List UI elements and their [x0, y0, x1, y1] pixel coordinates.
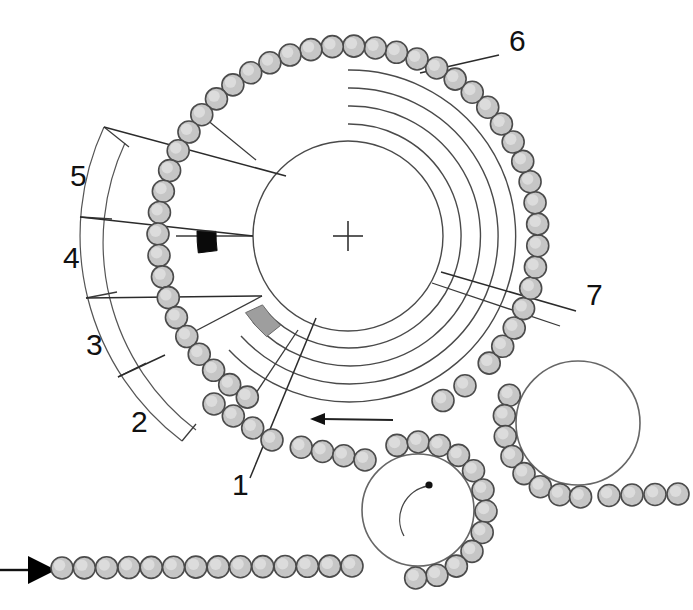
bead: [527, 235, 549, 257]
bead: [519, 171, 541, 193]
bead: [261, 429, 283, 451]
bead: [386, 434, 408, 456]
lower-left-idler-circle: [362, 454, 474, 566]
bead: [279, 44, 301, 66]
reference-label-2: 2: [131, 405, 148, 438]
gray-sector-segment: [246, 305, 281, 337]
bead: [386, 41, 408, 63]
idler-rotation-arrow-head: [425, 481, 432, 488]
bead: [454, 375, 476, 397]
bead: [405, 567, 427, 589]
bead: [494, 426, 516, 448]
dimension-arc-inner: [103, 143, 196, 430]
bead: [407, 431, 429, 453]
bead: [252, 556, 274, 578]
bead: [229, 556, 251, 578]
bead: [159, 160, 181, 182]
bead: [570, 486, 592, 508]
radial-tick-marks: [176, 110, 560, 405]
center-cross-mark: [333, 221, 363, 251]
bead: [147, 223, 169, 245]
bead: [207, 556, 229, 578]
bead: [321, 36, 343, 58]
bead: [513, 298, 535, 320]
bead: [598, 485, 620, 507]
bead: [296, 555, 318, 577]
bead: [140, 556, 162, 578]
reference-label-1: 1: [232, 468, 249, 501]
bead: [364, 37, 386, 59]
feed-direction-arrow: [0, 556, 56, 584]
reference-label-5: 5: [70, 159, 87, 192]
track-rotation-arrow: [310, 413, 393, 425]
bead: [503, 317, 525, 339]
bead: [242, 417, 264, 439]
bead: [319, 555, 341, 577]
bead: [621, 484, 643, 506]
reference-label-3: 3: [86, 328, 103, 361]
bead: [274, 555, 296, 577]
bead: [524, 256, 546, 278]
bead: [333, 445, 355, 467]
bead: [426, 564, 448, 586]
bead: [185, 556, 207, 578]
bead: [73, 557, 95, 579]
figure-root: 1234567: [0, 0, 693, 610]
bead: [148, 201, 170, 223]
bead: [203, 393, 225, 415]
bead: [498, 384, 520, 406]
bead: [222, 405, 244, 427]
bead: [527, 213, 549, 235]
bead: [475, 500, 497, 522]
bead: [341, 555, 363, 577]
reference-label-7: 7: [586, 278, 603, 311]
track-arc-5: [229, 70, 516, 402]
black-sector-segment: [197, 231, 217, 253]
bead: [157, 287, 179, 309]
track-segments: [197, 231, 281, 337]
bead: [354, 449, 376, 471]
bead: [426, 57, 448, 79]
right-idler-circle: [516, 361, 640, 485]
bead: [472, 479, 494, 501]
bead: [445, 555, 467, 577]
bead: [644, 484, 666, 506]
bead: [118, 557, 140, 579]
reference-label-6: 6: [509, 24, 526, 57]
bead: [51, 557, 73, 579]
bead: [549, 484, 571, 506]
bead: [152, 180, 174, 202]
bead: [520, 277, 542, 299]
track-arc-3: [253, 106, 480, 366]
bead: [406, 48, 428, 70]
bead: [300, 39, 322, 61]
bead: [290, 436, 312, 458]
reference-label-4: 4: [63, 241, 80, 274]
bead: [236, 386, 258, 408]
bead: [163, 556, 185, 578]
track-arc-4: [241, 88, 498, 384]
bead: [167, 140, 189, 162]
bead: [493, 405, 515, 427]
bead: [312, 441, 334, 463]
bead: [96, 557, 118, 579]
bead: [667, 483, 689, 505]
bead: [343, 35, 365, 57]
sector-boundary-5: [182, 424, 196, 441]
bead: [148, 245, 170, 267]
bead: [432, 390, 454, 412]
leader-line-2: [118, 355, 165, 377]
bead: [151, 266, 173, 288]
technical-diagram: 1234567: [0, 0, 693, 610]
bead: [524, 192, 546, 214]
main-track-arcs: [229, 70, 516, 402]
